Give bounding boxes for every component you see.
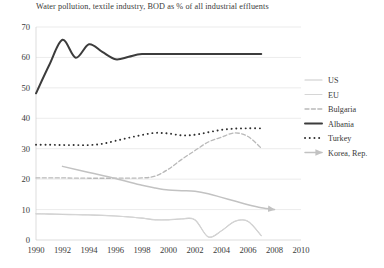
legend-label: Bulgaria <box>328 105 357 114</box>
legend-item-us[interactable]: US <box>305 76 339 85</box>
series-line-bulgaria <box>36 133 261 178</box>
x-tick-label: 1994 <box>80 245 98 255</box>
data-series-group <box>36 40 275 238</box>
legend-item-korea-rep[interactable]: Korea, Rep. <box>305 149 367 158</box>
series-line-eu <box>36 214 261 237</box>
y-tick-label: 60 <box>21 52 30 62</box>
y-axis-tick-labels: 010203040506070 <box>21 22 30 245</box>
chart-plot: 010203040506070 199019921994199619982000… <box>0 0 384 268</box>
x-tick-label: 2002 <box>186 245 203 255</box>
y-tick-label: 40 <box>21 113 30 123</box>
y-tick-label: 0 <box>26 235 30 245</box>
legend-label: EU <box>328 91 339 100</box>
series-line-korea-rep <box>63 166 275 209</box>
x-tick-label: 1992 <box>54 245 71 255</box>
x-tick-label: 2000 <box>160 245 177 255</box>
x-tick-label: 2006 <box>239 245 257 255</box>
x-tick-label: 2004 <box>213 245 231 255</box>
y-tick-label: 30 <box>21 144 30 154</box>
y-tick-label: 20 <box>21 174 30 184</box>
chart-legend: USEUBulgariaAlbaniaTurkeyKorea, Rep. <box>305 76 367 158</box>
y-tick-label: 10 <box>21 205 30 215</box>
series-line-albania <box>36 40 261 94</box>
legend-item-turkey[interactable]: Turkey <box>305 134 352 143</box>
x-tick-label: 2008 <box>266 245 283 255</box>
legend-label: Korea, Rep. <box>328 149 367 158</box>
legend-label: Turkey <box>328 134 352 143</box>
x-axis-tick-labels: 1990199219941996199820002002200420062008… <box>27 245 309 255</box>
x-tick-label: 1996 <box>107 245 125 255</box>
x-tick-label: 2010 <box>292 245 309 255</box>
legend-label: Albania <box>328 120 354 129</box>
legend-item-bulgaria[interactable]: Bulgaria <box>305 105 357 114</box>
y-tick-label: 50 <box>21 83 30 93</box>
x-tick-label: 1998 <box>133 245 150 255</box>
legend-label: US <box>328 76 339 85</box>
chart-container: Water pollution, textile industry, BOD a… <box>0 0 384 268</box>
x-tick-label: 1990 <box>27 245 44 255</box>
series-line-turkey <box>36 128 261 145</box>
legend-item-albania[interactable]: Albania <box>305 120 354 129</box>
legend-item-eu[interactable]: EU <box>305 91 339 100</box>
y-tick-label: 70 <box>21 22 30 32</box>
